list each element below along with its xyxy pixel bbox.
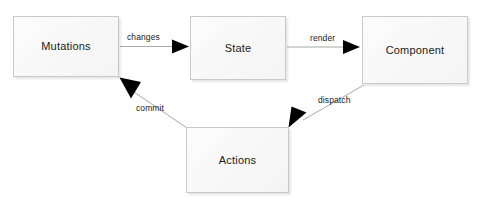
edge-label-render: render: [310, 34, 335, 43]
node-state[interactable]: State: [190, 16, 286, 80]
edge-label-dispatch: dispatch: [318, 96, 350, 105]
node-component-label: Component: [386, 45, 445, 56]
edge-label-commit: commit: [136, 104, 164, 113]
node-actions[interactable]: Actions: [186, 127, 289, 193]
node-mutations-label: Mutations: [41, 41, 91, 52]
node-state-label: State: [225, 43, 252, 54]
edge-dispatch: [289, 85, 365, 128]
edge-changes-arrowhead: [172, 40, 189, 54]
node-component[interactable]: Component: [362, 16, 468, 84]
edge-commit-arrowhead: [120, 78, 142, 99]
edge-label-changes: changes: [127, 33, 160, 42]
diagram-canvas: Mutations State Component Actions change…: [0, 0, 481, 204]
edge-render-arrowhead: [343, 40, 360, 54]
node-actions-label: Actions: [219, 155, 256, 166]
node-mutations[interactable]: Mutations: [13, 16, 119, 77]
edge-dispatch-arrowhead: [289, 107, 307, 128]
